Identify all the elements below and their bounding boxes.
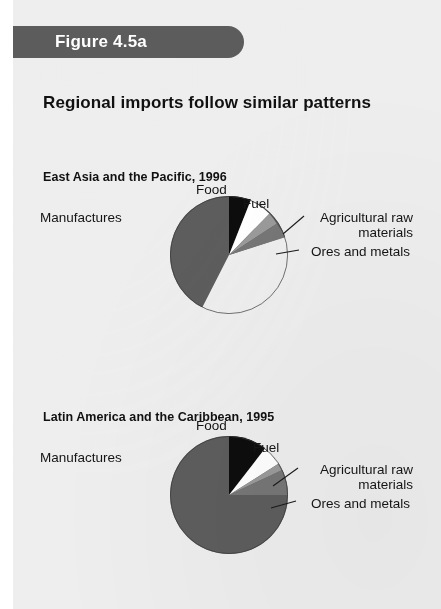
pie-chart-east-asia [170,196,288,314]
figure-page: Figure 4.5a Regional imports follow simi… [0,0,441,609]
pie-label-ores-and-metals: Ores and metals [288,496,410,511]
chart-block-east-asia: East Asia and the Pacific, 1996 [0,170,441,360]
pie-svg [170,196,288,314]
chart-block-latin-america: Latin America and the Caribbean, 1995 [0,410,441,600]
pie-label-manufactures: Manufactures [40,210,122,225]
figure-tab: Figure 4.5a [13,26,244,58]
figure-tab-label: Figure 4.5a [55,32,147,52]
pie-label-agricultural-raw-materials: Agricultural raw materials [291,210,413,240]
pie-label-food: Food [196,182,227,197]
pie-label-ores-and-metals: Ores and metals [288,244,410,259]
pie-label-manufactures: Manufactures [40,450,122,465]
chart-title: Latin America and the Caribbean, 1995 [43,410,274,424]
pie-label-fuel: Fuel [253,440,279,455]
pie-label-fuel: Fuel [243,196,269,211]
pie-label-food: Food [196,418,227,433]
figure-headline: Regional imports follow similar patterns [43,92,373,114]
pie-label-agricultural-raw-materials: Agricultural raw materials [291,462,413,492]
